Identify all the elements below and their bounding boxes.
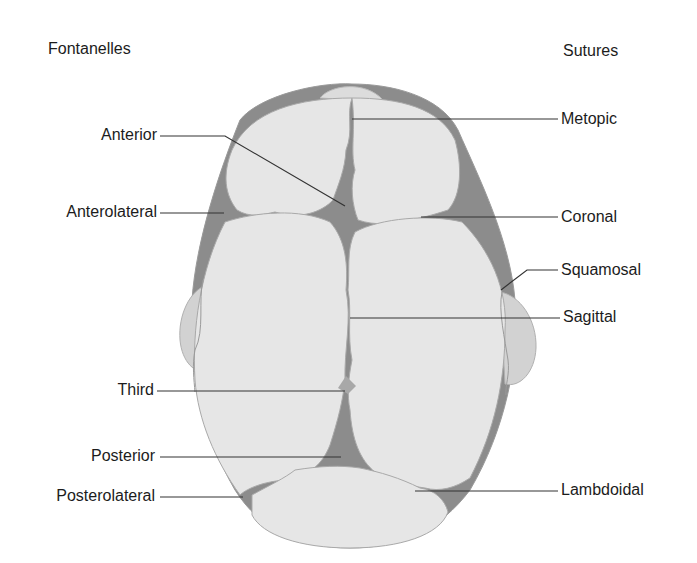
right-parietal-bone bbox=[348, 218, 505, 490]
label-squamosal: Squamosal bbox=[561, 261, 641, 279]
label-lambdoidal: Lambdoidal bbox=[561, 481, 644, 499]
label-third: Third bbox=[118, 381, 154, 399]
skull-diagram: Fontanelles Sutures Anterior Anterolater… bbox=[0, 0, 697, 563]
label-anterolateral: Anterolateral bbox=[66, 203, 157, 221]
label-posterolateral: Posterolateral bbox=[56, 487, 155, 505]
infant-skull-illustration bbox=[0, 0, 697, 563]
label-sagittal: Sagittal bbox=[563, 308, 616, 326]
label-posterior: Posterior bbox=[91, 447, 155, 465]
sutures-heading: Sutures bbox=[563, 42, 618, 60]
fontanelles-heading: Fontanelles bbox=[48, 40, 131, 58]
label-metopic: Metopic bbox=[561, 110, 617, 128]
left-parietal-bone bbox=[194, 213, 348, 495]
label-coronal: Coronal bbox=[561, 208, 617, 226]
label-anterior: Anterior bbox=[101, 126, 157, 144]
figure-caption-clipped bbox=[0, 556, 697, 563]
